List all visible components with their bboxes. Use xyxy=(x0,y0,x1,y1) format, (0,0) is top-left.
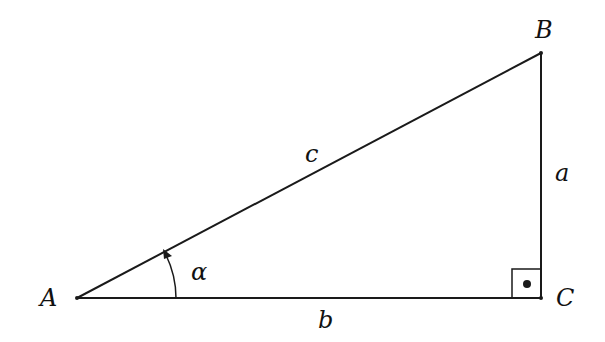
right-angle-dot-icon xyxy=(523,280,531,288)
angle-label-alpha: α xyxy=(191,258,207,286)
vertex-label-a: A xyxy=(38,284,57,312)
side-label-c: c xyxy=(305,140,318,168)
side-c xyxy=(77,53,541,298)
vertex-label-c: C xyxy=(556,284,574,312)
side-label-b: b xyxy=(318,306,333,334)
right-triangle-diagram: A B C c a b α xyxy=(0,0,605,342)
vertex-b-dot xyxy=(539,51,543,55)
vertex-a-dot xyxy=(75,296,79,300)
vertex-label-b: B xyxy=(534,16,553,44)
angle-arc xyxy=(166,255,176,298)
side-label-a: a xyxy=(555,159,569,187)
